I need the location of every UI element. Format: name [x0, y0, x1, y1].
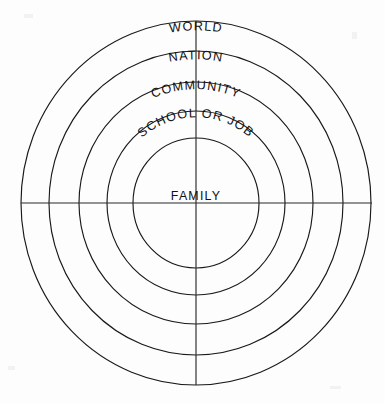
ring-label-family: FAMILY [171, 189, 221, 203]
ring-label-world: WORLD [168, 19, 223, 35]
axes-group [21, 21, 372, 385]
concentric-circles-diagram: WORLD NATION COMMUNITY SCHOOL OR JOB FAM… [0, 0, 385, 404]
ring-label-world-text: WORLD [168, 19, 223, 35]
diagram-canvas: WORLD NATION COMMUNITY SCHOOL OR JOB FAM… [0, 0, 385, 404]
